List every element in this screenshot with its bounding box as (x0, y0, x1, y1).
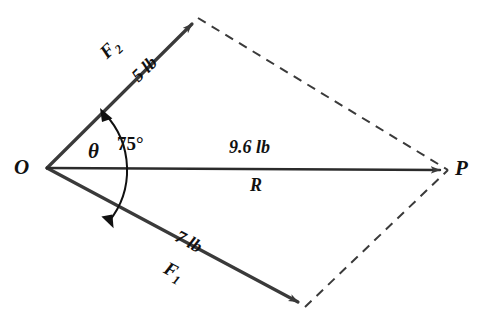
vector-label-resultant: R (250, 176, 262, 194)
vector-parallelogram-diagram: O P F2 5 lb 7 lb F1 9.6 lb R θ 75° (0, 0, 484, 320)
diagram-canvas (0, 0, 484, 320)
dashed-construction-line-bottom (305, 170, 448, 307)
vertex-label-origin: O (14, 157, 29, 178)
angle-theta-label: θ (88, 141, 99, 162)
angle-value-label: 75° (117, 134, 144, 153)
angle-arc-arrowhead-lower (101, 214, 113, 228)
vector-resultant-arrow (47, 168, 440, 170)
vertex-label-terminus: P (455, 158, 468, 179)
vector-magnitude-resultant: 9.6 lb (229, 138, 270, 156)
